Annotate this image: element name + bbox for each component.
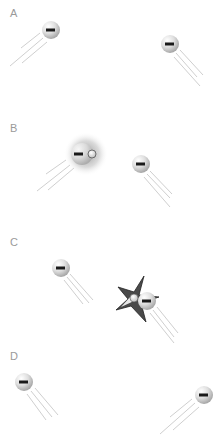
electron-particle (138, 292, 156, 310)
trail-lines (144, 171, 172, 207)
minus-sign-icon (136, 163, 145, 166)
trail-lines (150, 307, 178, 343)
panel-c: C (10, 236, 178, 343)
minus-sign-icon (46, 29, 55, 32)
trail-lines (27, 388, 58, 420)
electron-particle (161, 35, 179, 53)
trail-lines (160, 399, 199, 434)
minus-sign-icon (142, 300, 151, 303)
minus-sign-icon (74, 153, 83, 156)
panel-d: D (10, 350, 213, 434)
trail-lines (10, 33, 47, 66)
diagram-canvas: A B (0, 0, 222, 447)
panel-label-b: B (10, 122, 17, 134)
electron-particle (52, 259, 70, 277)
panel-b: B (10, 122, 172, 207)
positive-particle (88, 150, 96, 158)
minus-sign-icon (19, 381, 28, 384)
electron-particle (42, 21, 60, 39)
minus-sign-icon (199, 394, 208, 397)
panel-a: A (10, 7, 203, 86)
panel-label-d: D (10, 350, 18, 362)
minus-sign-icon (56, 267, 65, 270)
positive-particle (130, 294, 138, 302)
electron-particle (15, 373, 33, 391)
trail-lines (64, 274, 93, 304)
trail-lines (174, 50, 203, 86)
minus-sign-icon (165, 43, 174, 46)
electron-particle (132, 155, 150, 173)
electron-particle (195, 386, 213, 404)
panel-label-c: C (10, 236, 18, 248)
panel-label-a: A (10, 7, 18, 19)
